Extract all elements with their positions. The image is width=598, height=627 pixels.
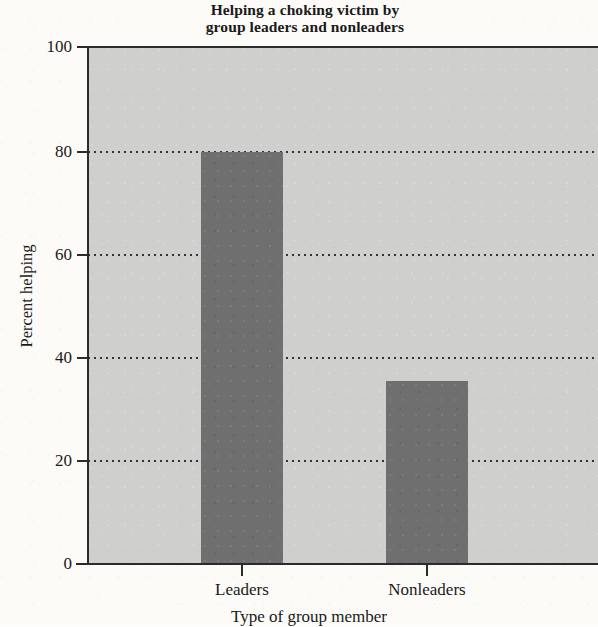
x-tick-nonleaders bbox=[426, 565, 428, 576]
y-tick-60 bbox=[77, 254, 88, 256]
chart-title-line-1: Helping a choking victim by bbox=[150, 1, 460, 18]
y-tick-label-60: 60 bbox=[32, 246, 72, 263]
y-tick-label-0: 0 bbox=[32, 555, 72, 572]
chart-title: Helping a choking victim by group leader… bbox=[150, 1, 460, 35]
x-tick-label-nonleaders: Nonleaders bbox=[337, 580, 517, 600]
x-axis-title: Type of group member bbox=[109, 607, 509, 627]
bar-texture bbox=[201, 152, 283, 563]
y-tick-80 bbox=[77, 151, 88, 153]
y-tick-label-100: 100 bbox=[32, 38, 72, 55]
plot-top-border bbox=[88, 46, 598, 48]
gridline-40 bbox=[88, 357, 598, 359]
y-tick-40 bbox=[77, 357, 88, 359]
y-tick-20 bbox=[77, 460, 88, 462]
y-tick-100 bbox=[77, 46, 88, 48]
y-tick-label-40: 40 bbox=[32, 349, 72, 366]
bar-texture bbox=[386, 381, 468, 563]
y-tick-0 bbox=[77, 563, 88, 565]
gridline-80 bbox=[88, 151, 598, 153]
bar-leaders[interactable] bbox=[201, 152, 283, 563]
bar-nonleaders[interactable] bbox=[386, 381, 468, 563]
plot-background-texture bbox=[88, 47, 598, 563]
gridline-20 bbox=[88, 460, 598, 462]
gridline-60 bbox=[88, 254, 598, 256]
y-axis-line bbox=[87, 46, 89, 565]
x-tick-leaders bbox=[241, 565, 243, 576]
y-tick-label-20: 20 bbox=[32, 452, 72, 469]
chart-title-line-2: group leaders and nonleaders bbox=[150, 18, 460, 35]
x-tick-label-leaders: Leaders bbox=[152, 580, 332, 600]
plot-area bbox=[88, 47, 598, 563]
y-tick-label-80: 80 bbox=[32, 143, 72, 160]
y-axis-title: Percent helping bbox=[17, 231, 37, 361]
x-axis-line bbox=[76, 563, 598, 565]
